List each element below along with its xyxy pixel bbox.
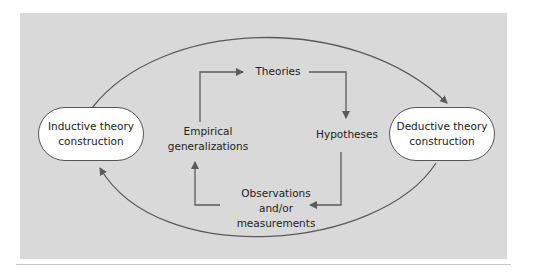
empirical-label: Empirical generalizations <box>158 124 258 154</box>
deductive-line2: construction <box>409 134 474 149</box>
empirical-line1: Empirical <box>158 124 258 139</box>
inductive-line1: Inductive theory <box>48 119 134 134</box>
observations-to-empirical-arrow <box>195 162 220 205</box>
inductive-line2: construction <box>58 134 123 149</box>
theories-label: Theories <box>248 64 308 79</box>
observations-label: Observations and/or measurements <box>226 186 326 231</box>
observations-line3: measurements <box>226 216 326 231</box>
observations-line1: Observations <box>226 186 326 201</box>
inductive-theory-node: Inductive theory construction <box>38 107 144 161</box>
theories-to-hypotheses-arrow <box>309 72 346 118</box>
deductive-line1: Deductive theory <box>397 119 488 134</box>
deductive-theory-node: Deductive theory construction <box>389 107 495 161</box>
empirical-to-theories-arrow <box>200 72 243 122</box>
hypotheses-label: Hypotheses <box>312 127 382 142</box>
observations-line2: and/or <box>226 201 326 216</box>
empirical-line2: generalizations <box>158 139 258 154</box>
